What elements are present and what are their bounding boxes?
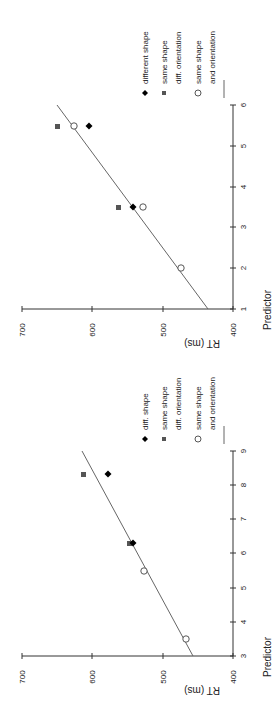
legend-label: diff. orientation [174,32,183,84]
legend-label: same shape [160,40,169,84]
rt-ticks: 700 600 500 400 [18,653,238,684]
rt-tick-label: 700 [18,670,27,684]
predictor-tick-label: 5 [239,143,248,148]
legend-diamond-icon [142,90,148,96]
predictor-tick-label: 3 [239,653,248,658]
chart-top-scatter: 700 600 500 400 1 2 3 4 5 6 Predictor RT… [0,0,276,355]
open-circle-marker [71,123,77,129]
rt-tick-label: 600 [88,323,97,337]
legend-label: same shape [194,386,203,430]
rt-tick-label: 500 [159,323,168,337]
data-points [81,471,189,643]
square-marker [55,124,60,129]
legend-diamond-icon [142,436,148,442]
legend-label: and orientation [208,31,217,84]
predictor-tick-label: 4 [239,184,248,189]
open-circle-marker [178,265,184,271]
predictor-axis-title: Predictor [262,289,273,330]
legend-label: diff. orientation [174,378,183,430]
predictor-tick-label: 5 [239,585,248,590]
square-marker [81,472,86,477]
open-circle-marker [183,636,189,642]
regression-line [82,451,193,656]
legend-label: diff. shape [141,393,150,430]
rt-tick-label: 700 [18,323,27,337]
rt-tick-label: 400 [229,323,238,337]
diamond-marker [105,471,112,478]
rt-axis-title: RT (ms) [184,338,220,349]
legend-open-circle-icon [195,436,201,442]
legend-label: different shape [141,31,150,84]
predictor-tick-label: 1 [239,306,248,311]
rt-tick-label: 400 [229,670,238,684]
predictor-tick-label: 2 [239,265,248,270]
predictor-tick-label: 8 [239,482,248,487]
legend: different shape same shape diff. orienta… [141,31,224,98]
rt-tick-label: 500 [159,670,168,684]
legend-label: same shape [194,40,203,84]
predictor-tick-label: 6 [239,550,248,555]
diamond-marker [86,123,93,130]
predictor-axis-title: Predictor [262,636,273,677]
rt-ticks: 700 600 500 400 [18,306,238,337]
legend: diff. shape same shape diff. orientation… [141,377,224,444]
rt-axis-title: RT (ms) [184,685,220,696]
predictor-tick-label: 3 [239,224,248,229]
predictor-tick-label: 4 [239,619,248,624]
predictor-tick-label: 9 [239,448,248,453]
legend-square-icon [162,91,166,95]
chart-bottom-scatter: 700 600 500 400 3 4 5 6 7 8 9 Predictor … [0,355,276,710]
data-points [55,123,184,272]
predictor-tick-label: 6 [239,102,248,107]
legend-label: and orientation [208,377,217,430]
predictor-tick-label: 7 [239,516,248,521]
legend-square-icon [162,437,166,441]
open-circle-marker [140,204,146,210]
rt-tick-label: 600 [88,670,97,684]
legend-label: same shape [160,386,169,430]
square-marker [116,205,121,210]
open-circle-marker [141,568,147,574]
legend-open-circle-icon [195,90,201,96]
